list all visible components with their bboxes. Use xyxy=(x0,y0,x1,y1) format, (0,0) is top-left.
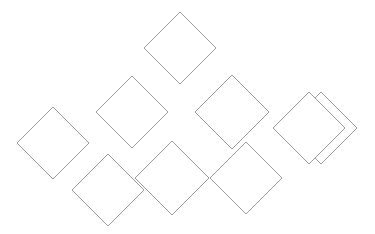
diamond-shape-mid-left xyxy=(96,76,168,148)
diamond-shape-mid-right xyxy=(195,75,269,149)
diamond-shape-top xyxy=(144,12,216,84)
diamond-shape-bottom-middle xyxy=(135,141,209,215)
diamond-shape-right-front xyxy=(273,92,345,164)
diamond-diagram xyxy=(0,0,375,234)
diamond-shape-left xyxy=(17,107,89,179)
diamond-shape-bottom-left xyxy=(72,154,144,226)
diamond-shape-bottom-right xyxy=(210,142,282,214)
